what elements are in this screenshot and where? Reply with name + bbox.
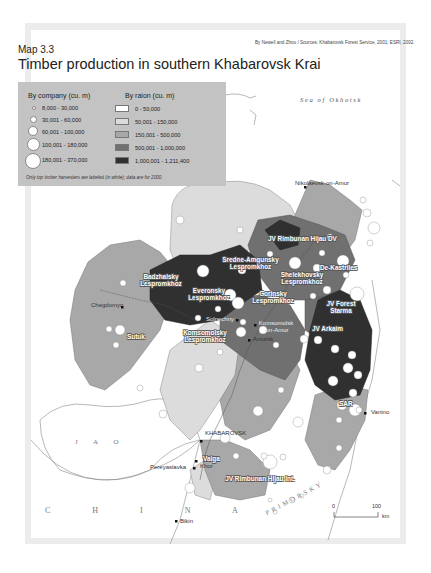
- legend: By company (cu. m) By raion (cu. m) 8,00…: [18, 82, 226, 186]
- label-sutuk: Sutuk: [127, 333, 145, 340]
- legend-swatch-5: [115, 157, 129, 164]
- scale-bar: [334, 512, 378, 517]
- legend-circle-3: [28, 126, 38, 136]
- legend-company-3: 60,001 - 100,000: [42, 129, 84, 135]
- label-jv-rimbunan-hijau-int: JV Rimbunan Hijau Int.: [225, 475, 295, 482]
- jao-label: J A O: [75, 438, 126, 446]
- label-jv-arkaim: JV Arkaim: [312, 325, 343, 332]
- map-number: Map 3.3: [18, 44, 54, 55]
- source-credit: By Newell and Zhou / Sources: Khabarovsk…: [255, 40, 423, 45]
- legend-raion-3: 150,001 - 500,000: [135, 132, 180, 138]
- city-amursk: Amursk: [253, 336, 273, 342]
- label-de-kastriles: De-Kastriles: [320, 264, 357, 271]
- legend-company-2: 30,001 - 60,000: [42, 117, 81, 123]
- label-jv-forest-starma: JV Forest Starma: [318, 300, 364, 314]
- city-pereyaslavka: Pereyaslavka: [150, 464, 186, 470]
- legend-raion-2: 50,001 - 150,000: [135, 119, 177, 125]
- label-komsomolsky: Komsomolsky Lespromkhoz: [170, 329, 240, 343]
- city-nikolaevsk: Nikolaevsk-on-Amur: [295, 180, 349, 186]
- scale-unit: km: [382, 513, 389, 519]
- label-vaiga: Vaiga: [203, 455, 220, 462]
- label-gorinsky: Gorinsky Lespromkhoz: [240, 290, 306, 304]
- legend-raion-4: 500,001 - 1,000,000: [135, 145, 185, 151]
- legend-swatch-2: [115, 118, 129, 125]
- label-jv-rimbunan-hijau-dv: JV Rimbunan Hijau DV: [268, 235, 337, 242]
- legend-circle-4: [27, 138, 40, 151]
- sea-label: Sea of Okhotsk: [300, 96, 362, 103]
- legend-raion-heading: By raion (cu. m): [125, 92, 174, 99]
- legend-circle-2: [30, 116, 37, 123]
- legend-company-1: 8,000 - 30,000: [42, 105, 78, 111]
- legend-company-heading: By company (cu. m): [28, 92, 90, 99]
- label-badzhalsky: Badzhalsky Lespromkhoz: [131, 273, 191, 287]
- city-bikin: Bikin: [180, 518, 193, 524]
- legend-note: Only top timber harvesters are labeled (…: [26, 175, 163, 180]
- raion-class2-west: [70, 240, 175, 390]
- legend-circle-5: [25, 153, 41, 169]
- legend-company-4: 100,001 - 180,000: [42, 142, 87, 148]
- city-komsomolsk: Komsomolsk -on-Amur: [258, 320, 294, 334]
- legend-circle-1: [32, 106, 36, 110]
- label-sar: SAR: [339, 400, 353, 407]
- legend-company-5: 180,001 - 370,000: [42, 157, 87, 163]
- legend-raion-1: 0 - 50,000: [135, 106, 160, 112]
- legend-swatch-4: [115, 144, 129, 151]
- map-title: Timber production in southern Khabarovsk…: [18, 56, 321, 72]
- label-shelekhovsky: Shelekhovsky Lespromkhoz: [267, 271, 337, 285]
- china-label: C H I N A: [45, 506, 258, 515]
- label-sredne-amgunsky: Sredne-Amgunsky Lespromkhoz: [213, 256, 288, 270]
- legend-swatch-3: [115, 131, 129, 138]
- city-khabarovsk: KHABAROVSK: [205, 430, 246, 436]
- label-everonsky: Everonsky Lespromkhoz: [175, 287, 243, 301]
- city-chegdomyn: Chegdomyn: [91, 302, 123, 308]
- scale-max: 100: [372, 503, 381, 509]
- legend-raion-5: 1,000,001 - 1,211,400: [135, 158, 189, 164]
- city-vanino: Vanino: [371, 409, 389, 415]
- city-solnechny: Solnechny: [206, 316, 234, 322]
- legend-swatch-1: [115, 105, 129, 112]
- city-khor: Khor: [200, 463, 213, 469]
- scale-zero: 0: [332, 503, 335, 509]
